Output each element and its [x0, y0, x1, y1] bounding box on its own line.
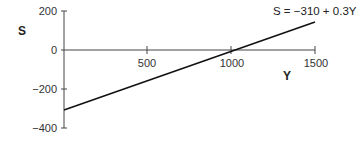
- x-axis-title: Y: [283, 69, 291, 83]
- equation-label: S = −310 + 0.3Y: [273, 5, 357, 17]
- x-tick-label: 1000: [220, 57, 244, 69]
- chart: 200 0 −200 −400 500 1000 1500 S Y S = −3…: [0, 0, 363, 143]
- y-tick-label: 0: [51, 44, 57, 56]
- x-tick-label: 500: [138, 57, 156, 69]
- y-tick-label: −200: [32, 83, 57, 95]
- y-axis-title: S: [18, 24, 26, 38]
- x-tick-label: 1500: [304, 57, 328, 69]
- savings-function-line: [64, 22, 315, 110]
- y-tick-label: 200: [39, 5, 57, 17]
- y-tick-label: −400: [32, 122, 57, 134]
